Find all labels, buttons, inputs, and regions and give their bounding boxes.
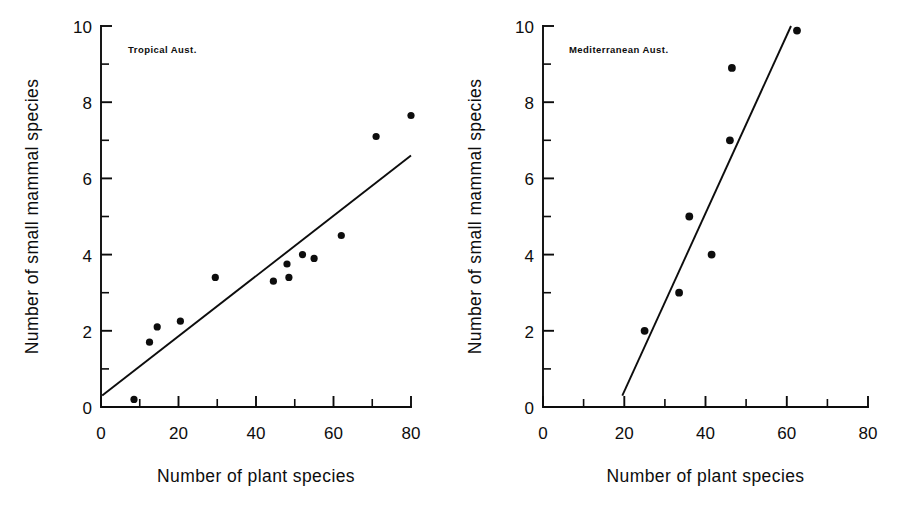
data-point	[793, 27, 801, 35]
data-point	[685, 213, 693, 221]
y-minor-ticks	[101, 64, 109, 369]
regression-line	[102, 156, 411, 396]
y-tick-label-4: 4	[525, 247, 534, 266]
axes-left	[101, 26, 411, 407]
data-point	[177, 318, 184, 325]
x-tick-label-60: 60	[777, 424, 796, 443]
panel-annotation-mediterranean: Mediterranean Aust.	[569, 44, 669, 55]
x-tick-label-40: 40	[247, 424, 266, 443]
x-tick-label-80: 80	[859, 424, 878, 443]
y-tick-label-8: 8	[83, 94, 92, 113]
data-point	[641, 327, 649, 335]
y-tick-label-0: 0	[83, 399, 92, 418]
data-point	[373, 133, 380, 140]
data-point	[270, 278, 277, 285]
x-tick-label-40: 40	[696, 424, 715, 443]
x-tick-labels-left: 0 20 40 60 80	[96, 424, 420, 443]
scatter-plot-figure: 10 8 6 4 2 0 0 20 40 60 80 Number of pla…	[0, 0, 902, 505]
y-minor-ticks	[543, 64, 551, 369]
data-point	[283, 260, 290, 267]
data-point	[338, 232, 345, 239]
y-tick-label-2: 2	[525, 323, 534, 342]
data-point	[407, 112, 414, 119]
x-tick-label-60: 60	[324, 424, 343, 443]
data-point	[285, 274, 292, 281]
y-tick-labels-right: 10 8 6 4 2 0	[515, 18, 534, 418]
x-major-ticks	[543, 396, 868, 407]
axes-right	[543, 26, 868, 407]
x-tick-label-0: 0	[538, 424, 547, 443]
y-tick-label-4: 4	[83, 247, 92, 266]
data-point	[708, 251, 716, 259]
panel-tropical-australia: 10 8 6 4 2 0 0 20 40 60 80 Number of pla…	[0, 0, 451, 505]
x-tick-label-0: 0	[96, 424, 105, 443]
data-points-tropical	[130, 112, 414, 403]
x-tick-label-20: 20	[615, 424, 634, 443]
data-point	[212, 274, 219, 281]
x-tick-labels-right: 0 20 40 60 80	[538, 424, 877, 443]
axis-lines	[101, 26, 411, 407]
regression-line	[622, 26, 791, 396]
panel-annotation-tropical: Tropical Aust.	[128, 44, 197, 55]
axis-lines	[543, 26, 868, 407]
y-axis-title: Number of small mammal species	[465, 79, 485, 355]
data-point	[726, 136, 734, 144]
y-tick-label-6: 6	[525, 170, 534, 189]
data-point	[146, 339, 153, 346]
x-axis-title: Number of plant species	[157, 466, 355, 486]
y-axis-title: Number of small mammal species	[22, 79, 42, 355]
data-point	[675, 289, 683, 297]
y-tick-label-6: 6	[83, 170, 92, 189]
data-point	[130, 396, 137, 403]
x-tick-label-20: 20	[169, 424, 188, 443]
y-tick-label-2: 2	[83, 323, 92, 342]
data-point	[299, 251, 306, 258]
y-tick-label-0: 0	[525, 399, 534, 418]
x-major-ticks	[101, 396, 411, 407]
x-axis-title: Number of plant species	[607, 466, 805, 486]
data-point	[311, 255, 318, 262]
data-point	[154, 323, 161, 330]
y-tick-label-10: 10	[73, 18, 92, 37]
y-tick-labels-left: 10 8 6 4 2 0	[73, 18, 92, 418]
y-tick-label-10: 10	[515, 18, 534, 37]
panel-mediterranean-australia: 10 8 6 4 2 0 0 20 40 60 80 Number of pla…	[451, 0, 902, 505]
x-tick-label-80: 80	[402, 424, 421, 443]
y-tick-label-8: 8	[525, 94, 534, 113]
data-point	[728, 64, 736, 72]
